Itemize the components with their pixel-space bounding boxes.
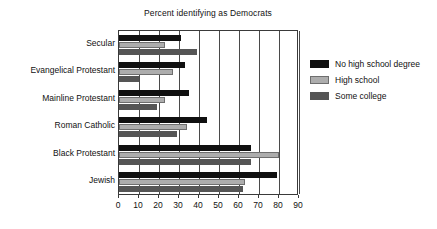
gridline-80 xyxy=(279,31,280,194)
x-tick-mark xyxy=(278,195,279,198)
x-tick-mark xyxy=(118,195,119,198)
x-axis: 0102030405060708090 xyxy=(118,195,298,217)
legend-label: No high school degree xyxy=(335,59,420,69)
x-tick-label: 0 xyxy=(108,200,128,210)
x-tick-label: 30 xyxy=(168,200,188,210)
category-label: Jewish xyxy=(3,175,115,185)
bar xyxy=(119,172,277,178)
gridline-40 xyxy=(199,31,200,194)
x-tick-label: 50 xyxy=(208,200,228,210)
bar xyxy=(119,145,251,151)
plot-area xyxy=(118,30,298,195)
legend-swatch-icon xyxy=(310,92,329,100)
y-axis-category-labels: SecularEvangelical ProtestantMainline Pr… xyxy=(0,30,115,195)
category-label: Evangelical Protestant xyxy=(3,65,115,75)
bar xyxy=(119,62,185,68)
bar xyxy=(119,49,197,55)
bar xyxy=(119,90,189,96)
gridline-50 xyxy=(219,31,220,194)
x-tick-label: 70 xyxy=(248,200,268,210)
gridline-90 xyxy=(299,31,300,194)
bar xyxy=(119,76,139,82)
gridline-60 xyxy=(239,31,240,194)
legend-item: Some college xyxy=(310,90,435,101)
category-label: Secular xyxy=(3,38,115,48)
bar xyxy=(119,131,177,137)
category-label: Roman Catholic xyxy=(3,120,115,130)
bar xyxy=(119,152,279,158)
x-tick-label: 20 xyxy=(148,200,168,210)
chart-figure: Percent identifying as Democrats Secular… xyxy=(0,0,437,229)
x-tick-label: 80 xyxy=(268,200,288,210)
chart-title: Percent identifying as Democrats xyxy=(118,8,298,18)
x-tick-label: 90 xyxy=(288,200,308,210)
legend-item: High school xyxy=(310,74,435,85)
x-tick-mark xyxy=(218,195,219,198)
legend-item: No high school degree xyxy=(310,58,435,69)
gridline-20 xyxy=(159,31,160,194)
legend-label: High school xyxy=(335,75,379,85)
x-tick-label: 60 xyxy=(228,200,248,210)
gridline-10 xyxy=(139,31,140,194)
x-tick-mark xyxy=(178,195,179,198)
x-tick-mark xyxy=(298,195,299,198)
bar xyxy=(119,104,157,110)
bar xyxy=(119,35,181,41)
x-tick-mark xyxy=(238,195,239,198)
x-tick-mark xyxy=(138,195,139,198)
bar xyxy=(119,117,207,123)
legend-swatch-icon xyxy=(310,76,329,84)
gridline-70 xyxy=(259,31,260,194)
category-label: Mainline Protestant xyxy=(3,93,115,103)
x-tick-mark xyxy=(158,195,159,198)
bar xyxy=(119,179,245,185)
bar xyxy=(119,159,251,165)
x-tick-mark xyxy=(198,195,199,198)
legend-swatch-icon xyxy=(310,60,329,68)
bar xyxy=(119,42,165,48)
bar xyxy=(119,69,173,75)
chart-legend: No high school degreeHigh schoolSome col… xyxy=(310,58,435,106)
category-label: Black Protestant xyxy=(3,148,115,158)
bar xyxy=(119,97,165,103)
legend-label: Some college xyxy=(335,91,387,101)
x-tick-mark xyxy=(258,195,259,198)
x-tick-label: 10 xyxy=(128,200,148,210)
bar xyxy=(119,186,243,192)
x-tick-label: 40 xyxy=(188,200,208,210)
bar xyxy=(119,124,187,130)
gridline-30 xyxy=(179,31,180,194)
